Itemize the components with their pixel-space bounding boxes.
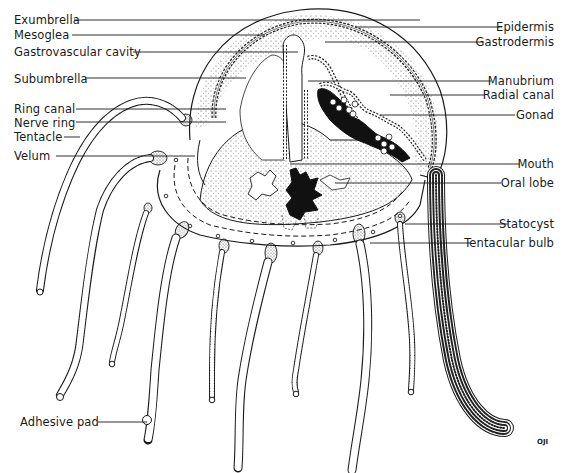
tentacle-9 <box>400 224 412 390</box>
label-oral-lobe: Oral lobe <box>501 177 554 189</box>
label-gastrodermis: Gastrodermis <box>476 36 554 48</box>
label-nerve-ring: Nerve ring <box>14 117 75 129</box>
label-tentacular-bulb: Tentacular bulb <box>464 237 554 249</box>
label-epidermis: Epidermis <box>496 21 554 33</box>
label-radial-canal: Radial canal <box>483 89 554 101</box>
tentacle-5 <box>212 252 222 398</box>
label-mouth: Mouth <box>517 158 554 170</box>
tentacle-3 <box>112 213 146 362</box>
label-exumbrella: Exumbrella <box>14 14 80 26</box>
label-velum: Velum <box>14 150 50 162</box>
label-tentacle: Tentacle <box>14 131 62 143</box>
label-gastrovascular-cavity: Gastrovascular cavity <box>14 46 141 58</box>
tentacle-right-long <box>436 175 505 428</box>
artist-credit: OJI <box>537 438 548 446</box>
jellyfish-diagram: ExumbrellaMesogleaGastrovascular cavityS… <box>0 0 572 473</box>
label-ring-canal: Ring canal <box>14 103 75 115</box>
label-subumbrella: Subumbrella <box>14 73 88 85</box>
label-mesoglea: Mesoglea <box>14 29 69 41</box>
label-gonad: Gonad <box>516 109 554 121</box>
tentacle-8 <box>352 244 368 470</box>
label-statocyst: Statocyst <box>499 218 554 230</box>
tentacle-4 <box>148 238 176 440</box>
label-manubrium: Manubrium <box>488 75 554 87</box>
adhesive-pads <box>37 289 414 425</box>
label-adhesive-pad: Adhesive pad <box>20 416 99 428</box>
tentacle-left-2 <box>60 158 150 395</box>
tentacle-7 <box>295 255 317 392</box>
tentacle-6 <box>238 262 268 468</box>
